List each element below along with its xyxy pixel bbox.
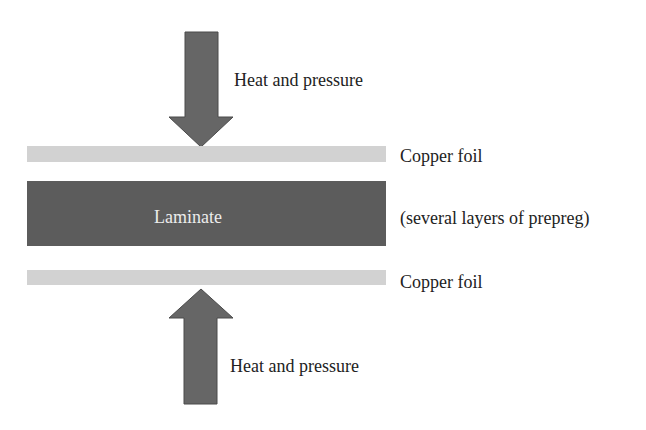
bottom-copper-foil: [27, 270, 386, 285]
laminate-label: Laminate: [154, 208, 222, 226]
prepreg-note: (several layers of prepreg): [400, 209, 589, 227]
down-arrow-icon: [168, 32, 234, 148]
top-copper-foil: [27, 146, 386, 162]
top-copper-foil-label: Copper foil: [400, 147, 483, 165]
laminate-press-diagram: Heat and pressure Copper foil Laminate (…: [0, 0, 646, 430]
up-arrow-icon: [168, 289, 234, 405]
bottom-copper-foil-label: Copper foil: [400, 273, 483, 291]
top-arrow-label: Heat and pressure: [234, 71, 363, 89]
bottom-arrow-label: Heat and pressure: [230, 357, 359, 375]
